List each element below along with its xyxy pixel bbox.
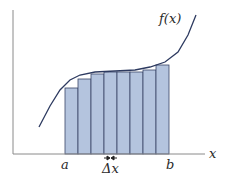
riemann-rectangles	[65, 65, 169, 154]
riemann-rectangle	[65, 88, 78, 154]
b-label: b	[166, 158, 174, 171]
riemann-rectangle	[143, 70, 156, 154]
riemann-sum-diagram	[0, 0, 225, 178]
riemann-rectangle	[104, 72, 117, 154]
a-label: a	[61, 158, 69, 171]
delta-x-label: Δx	[102, 162, 119, 175]
riemann-rectangle	[117, 72, 130, 154]
riemann-rectangle	[156, 65, 169, 154]
function-label: f(x)	[159, 12, 181, 25]
x-axis-label: x	[209, 147, 216, 160]
riemann-rectangle	[91, 74, 104, 154]
riemann-rectangle	[78, 79, 91, 154]
riemann-rectangle	[130, 72, 143, 154]
delta-x-arrows-icon	[104, 156, 117, 160]
